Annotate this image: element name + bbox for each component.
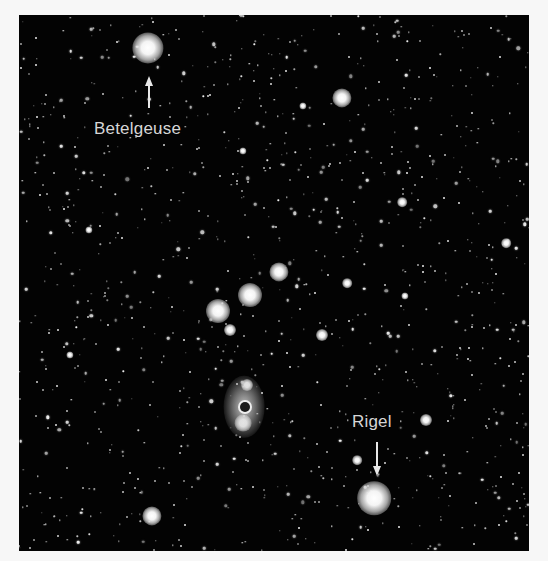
rigel-arrow-icon [376,442,378,468]
arrow-up-icon [145,76,153,86]
arrow-down-icon [373,466,381,476]
star-field-image: BetelgeuseRigel [19,15,529,551]
betelgeuse-label: Betelgeuse [94,120,181,137]
star-annotations: BetelgeuseRigel [19,15,529,551]
rigel-label: Rigel [352,413,392,430]
betelgeuse-arrow-icon [148,84,150,108]
